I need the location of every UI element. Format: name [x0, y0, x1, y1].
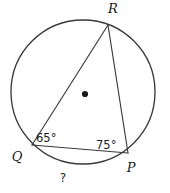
geometry-figure: R Q P 65° 75° ?: [0, 0, 170, 193]
arc-unknown-label: ?: [60, 171, 66, 185]
angle-label-q: 65°: [36, 131, 56, 145]
vertex-label-r: R: [107, 1, 118, 16]
geometry-canvas: R Q P 65° 75° ?: [0, 0, 170, 193]
angle-label-p: 75°: [96, 138, 116, 152]
vertex-label-p: P: [126, 160, 136, 175]
circle-center-dot: [82, 91, 88, 97]
vertex-label-q: Q: [12, 149, 23, 164]
chord-qr: [32, 25, 108, 145]
chord-rp: [108, 25, 128, 153]
